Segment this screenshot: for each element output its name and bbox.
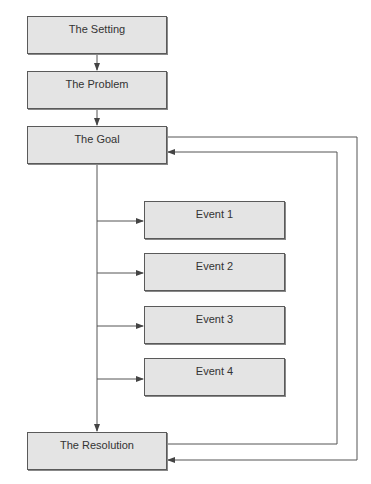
- box-label: Event 2: [196, 260, 233, 272]
- box-label: The Problem: [66, 78, 129, 90]
- box-the-setting: The Setting: [27, 16, 167, 54]
- box-event-4: Event 4: [144, 358, 285, 396]
- box-the-problem: The Problem: [27, 71, 167, 109]
- box-the-goal: The Goal: [27, 126, 167, 164]
- box-label: The Setting: [69, 23, 125, 35]
- box-event-3: Event 3: [144, 306, 285, 344]
- box-label: The Resolution: [60, 439, 134, 451]
- box-label: The Goal: [74, 133, 119, 145]
- box-label: Event 3: [196, 313, 233, 325]
- box-label: Event 1: [196, 208, 233, 220]
- box-event-1: Event 1: [144, 201, 285, 239]
- box-label: Event 4: [196, 365, 233, 377]
- box-the-resolution: The Resolution: [27, 432, 167, 470]
- box-event-2: Event 2: [144, 253, 285, 291]
